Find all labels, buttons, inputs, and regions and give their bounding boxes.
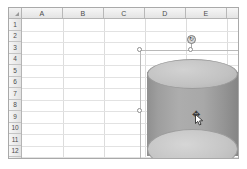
- resize-handle-top-center[interactable]: [188, 47, 193, 52]
- gridline-horizontal: [22, 42, 238, 43]
- column-header-a[interactable]: A: [22, 8, 63, 18]
- column-header-c[interactable]: C: [104, 8, 145, 18]
- row-header-10[interactable]: 10: [9, 123, 21, 135]
- gridline-horizontal: [22, 157, 238, 158]
- row-header-5[interactable]: 5: [9, 65, 21, 77]
- cylinder-shape[interactable]: [147, 59, 238, 158]
- row-header-7[interactable]: 7: [9, 88, 21, 100]
- column-header-e[interactable]: E: [186, 8, 227, 18]
- row-header-2[interactable]: 2: [9, 31, 21, 43]
- selection-edge-top: [140, 50, 238, 51]
- screenshot-root: A B C D E F G 1 2 3 4 5 6 7 8 9 10 11 12: [0, 0, 247, 169]
- cylinder-top-face: [147, 59, 238, 89]
- row-header-6[interactable]: 6: [9, 77, 21, 89]
- selection-edge-left: [140, 50, 141, 158]
- cylinder-body: [147, 72, 238, 156]
- row-header-9[interactable]: 9: [9, 111, 21, 123]
- gridline-horizontal: [22, 31, 238, 32]
- row-header-1[interactable]: 1: [9, 19, 21, 31]
- gridline-horizontal: [22, 123, 238, 124]
- row-header-3[interactable]: 3: [9, 42, 21, 54]
- column-header-b[interactable]: B: [63, 8, 104, 18]
- row-header-4[interactable]: 4: [9, 54, 21, 66]
- gridline-horizontal: [22, 134, 238, 135]
- arrow-pointer-icon: [195, 114, 204, 126]
- row-header-8[interactable]: 8: [9, 100, 21, 112]
- row-header-12[interactable]: 12: [9, 146, 21, 158]
- column-header-d[interactable]: D: [145, 8, 186, 18]
- row-header-column: 1 2 3 4 5 6 7 8 9 10 11 12: [9, 19, 22, 158]
- gridline-horizontal: [22, 100, 238, 101]
- gridline-horizontal: [22, 88, 238, 89]
- worksheet[interactable]: A B C D E F G 1 2 3 4 5 6 7 8 9 10 11 12: [8, 7, 239, 159]
- rotation-handle-stem: [191, 39, 192, 50]
- column-header-f[interactable]: F: [227, 8, 239, 18]
- resize-handle-top-left[interactable]: [137, 47, 142, 52]
- select-all-triangle-icon: [15, 12, 19, 16]
- select-all-corner[interactable]: [9, 8, 22, 18]
- column-header-row: A B C D E F G: [9, 8, 238, 19]
- gridline-horizontal: [22, 146, 238, 147]
- gridline-horizontal: [22, 65, 238, 66]
- grid-body[interactable]: ↻ ✥: [22, 19, 238, 158]
- shape-selection-frame: ↻: [140, 50, 238, 158]
- gridline-horizontal: [22, 77, 238, 78]
- gridline-horizontal: [22, 111, 238, 112]
- row-header-11[interactable]: 11: [9, 134, 21, 146]
- gridline-horizontal: [22, 54, 238, 55]
